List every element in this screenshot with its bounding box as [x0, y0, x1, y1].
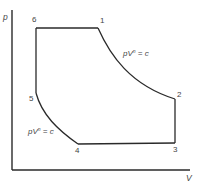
- point-label-3: 3: [173, 145, 178, 154]
- point-label-1: 1: [100, 16, 105, 25]
- process-4-5: [36, 93, 78, 144]
- equation-label-compression: pVn = c: [27, 126, 54, 136]
- x-axis-label: V: [186, 173, 193, 183]
- process-1-2: [98, 28, 175, 99]
- point-label-4: 4: [75, 146, 80, 155]
- y-axis-label: p: [2, 12, 8, 22]
- pv-diagram: p V 1 2 3 4 5 6 pVn = c pVn = c: [0, 0, 200, 185]
- point-label-2: 2: [177, 90, 182, 99]
- point-label-6: 6: [32, 15, 37, 24]
- equation-label-expansion: pVn = c: [122, 48, 149, 58]
- process-3-4: [78, 143, 175, 144]
- point-label-5: 5: [29, 94, 34, 103]
